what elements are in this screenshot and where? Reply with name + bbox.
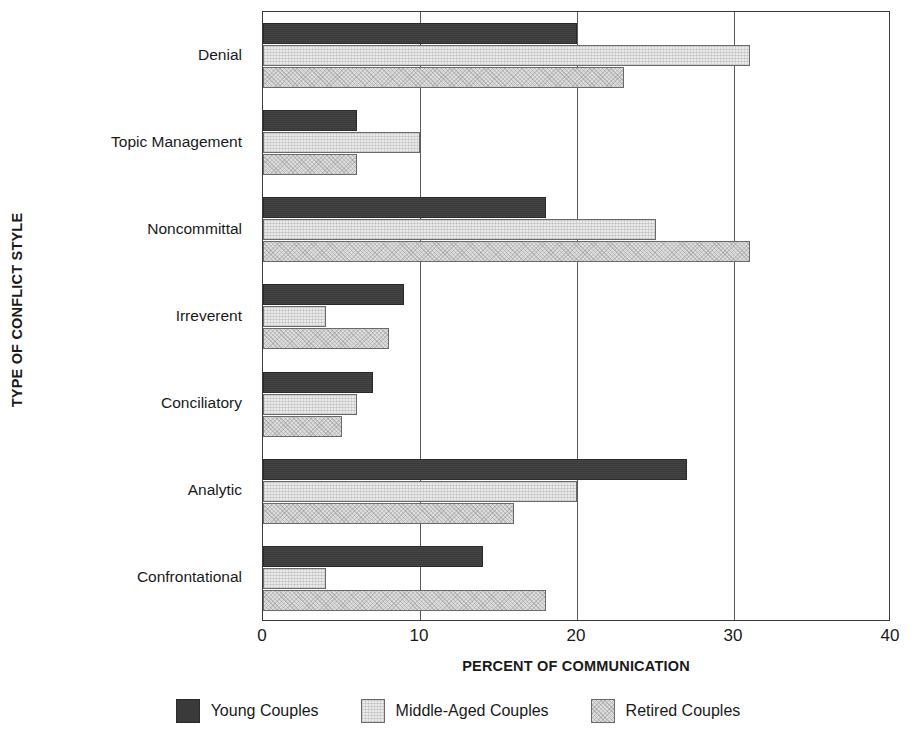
legend-swatch-icon: [176, 699, 200, 723]
bar: [263, 328, 389, 349]
legend-item[interactable]: Middle-Aged Couples: [361, 699, 549, 723]
bar: [263, 481, 577, 502]
x-tick-label-20: 20: [567, 626, 586, 646]
category-label-conciliatory: Conciliatory: [40, 395, 242, 411]
y-axis-category-labels: DenialTopic ManagementNoncommittalIrreve…: [40, 11, 242, 621]
category-label-denial: Denial: [40, 47, 242, 63]
bar: [263, 459, 687, 480]
bar: [263, 110, 357, 131]
x-tick-label-0: 0: [257, 626, 266, 646]
category-label-analytic: Analytic: [40, 483, 242, 499]
x-axis-title: PERCENT OF COMMUNICATION: [262, 658, 890, 674]
legend-swatch-icon: [361, 699, 385, 723]
x-axis-tick-labels: 010203040: [262, 626, 890, 652]
bar: [263, 503, 514, 524]
bar-group: [263, 99, 889, 186]
legend-label: Middle-Aged Couples: [396, 702, 549, 720]
category-label-noncommittal: Noncommittal: [40, 221, 242, 237]
bar: [263, 241, 750, 262]
bar-group: [263, 186, 889, 273]
bar: [263, 306, 326, 327]
bar: [263, 590, 546, 611]
category-label-topic-management: Topic Management: [40, 134, 242, 150]
y-axis-title: TYPE OF CONFLICT STYLE: [0, 0, 34, 620]
legend-label: Young Couples: [211, 702, 319, 720]
bar: [263, 546, 483, 567]
bar: [263, 23, 577, 44]
bar-group: [263, 12, 889, 99]
bar: [263, 219, 656, 240]
legend-item[interactable]: Retired Couples: [591, 699, 741, 723]
bar-group: [263, 448, 889, 535]
bar-group: [263, 361, 889, 448]
category-label-irreverent: Irreverent: [40, 308, 242, 324]
plot-area: [262, 11, 890, 621]
bar: [263, 394, 357, 415]
category-label-confrontational: Confrontational: [40, 570, 242, 586]
bar: [263, 67, 624, 88]
legend-item[interactable]: Young Couples: [176, 699, 319, 723]
x-tick-label-30: 30: [724, 626, 743, 646]
legend-swatch-icon: [591, 699, 615, 723]
chart-legend: Young CouplesMiddle-Aged CouplesRetired …: [0, 694, 916, 728]
y-axis-title-text: TYPE OF CONFLICT STYLE: [9, 213, 25, 408]
bar-chart: TYPE OF CONFLICT STYLE DenialTopic Manag…: [0, 0, 916, 741]
bar: [263, 568, 326, 589]
bar: [263, 416, 342, 437]
bar: [263, 372, 373, 393]
bar: [263, 45, 750, 66]
legend-label: Retired Couples: [626, 702, 741, 720]
bar-group: [263, 535, 889, 622]
x-tick-label-40: 40: [881, 626, 900, 646]
bar: [263, 284, 404, 305]
bar-group: [263, 273, 889, 360]
bar: [263, 132, 420, 153]
bar: [263, 197, 546, 218]
bar: [263, 154, 357, 175]
x-tick-label-10: 10: [410, 626, 429, 646]
